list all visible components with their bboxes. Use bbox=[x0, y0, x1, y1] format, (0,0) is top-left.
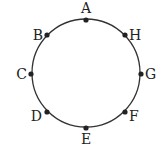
point-label-h: H bbox=[129, 27, 141, 43]
point-c bbox=[28, 71, 33, 76]
point-label-a: A bbox=[80, 0, 92, 16]
points-group: AHGFEDCB bbox=[16, 0, 156, 147]
point-label-b: B bbox=[33, 27, 43, 43]
point-label-g: G bbox=[145, 66, 156, 82]
point-label-e: E bbox=[81, 131, 91, 147]
point-e bbox=[83, 125, 88, 130]
point-g bbox=[138, 71, 143, 76]
point-a bbox=[83, 17, 88, 22]
point-h bbox=[122, 32, 127, 37]
point-b bbox=[44, 32, 49, 37]
point-f bbox=[122, 109, 127, 114]
point-label-d: D bbox=[31, 108, 42, 124]
point-label-f: F bbox=[129, 108, 139, 124]
point-label-c: C bbox=[16, 66, 27, 82]
circle-diagram: AHGFEDCB bbox=[0, 0, 162, 151]
point-d bbox=[44, 109, 49, 114]
